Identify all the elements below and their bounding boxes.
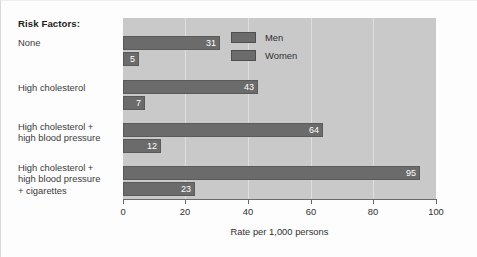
chart-title: Risk Factors:: [18, 18, 80, 29]
category-label-line: High cholesterol +: [18, 162, 100, 173]
bar-men-high-cholesterol: 43: [123, 80, 258, 94]
x-tick-label: 20: [180, 206, 190, 217]
bar-men-chol-bp-cigarettes: 95: [123, 166, 420, 180]
plot-area: 31 5 43 7 64 12 95 23 Men: [123, 18, 436, 199]
x-tick-mark: [311, 199, 312, 204]
category-label-line: High cholesterol: [18, 82, 85, 93]
x-tick-mark: [185, 199, 186, 204]
bar-men-chol-bp: 64: [123, 123, 323, 137]
x-tick-label: 80: [368, 206, 378, 217]
category-label-line: high blood pressure: [18, 173, 100, 184]
category-label-chol-bp-cigarettes: High cholesterol + high blood pressure +…: [18, 162, 100, 196]
bar-value-label: 23: [181, 183, 191, 197]
bar-women-none: 5: [123, 52, 139, 66]
x-tick-label: 60: [306, 206, 316, 217]
legend-swatch-icon: [231, 32, 256, 43]
bar-value-label: 43: [244, 81, 254, 95]
legend-item-women: Women: [231, 48, 351, 64]
x-tick-label: 100: [428, 206, 444, 217]
x-tick-mark: [248, 199, 249, 204]
x-tick-label: 40: [243, 206, 253, 217]
bar-value-label: 31: [206, 37, 216, 51]
legend-item-men: Men: [231, 30, 351, 46]
bar-women-high-cholesterol: 7: [123, 96, 145, 110]
x-tick-mark: [373, 199, 374, 204]
legend: Men Women: [231, 30, 351, 66]
x-tick-label: 0: [120, 206, 125, 217]
legend-label: Women: [265, 48, 297, 63]
bar-value-label: 5: [130, 53, 135, 67]
legend-label: Men: [265, 30, 283, 45]
category-label-line: High cholesterol +: [18, 121, 100, 132]
category-label-column: Risk Factors: None High cholesterol High…: [18, 1, 123, 257]
category-label-line: + cigarettes: [18, 185, 100, 196]
bar-men-none: 31: [123, 36, 220, 50]
bar-value-label: 12: [147, 140, 157, 154]
bar-value-label: 95: [406, 167, 416, 181]
x-axis-label: Rate per 1,000 persons: [123, 226, 436, 237]
category-label-none: None: [18, 37, 40, 48]
category-label-chol-bp: High cholesterol + high blood pressure: [18, 121, 100, 144]
x-axis-line: [123, 199, 436, 200]
category-label-line: None: [18, 37, 40, 48]
category-label-line: high blood pressure: [18, 132, 100, 143]
category-label-high-cholesterol: High cholesterol: [18, 82, 85, 93]
bar-value-label: 7: [136, 97, 141, 111]
chart-figure: Risk Factors: None High cholesterol High…: [0, 0, 477, 257]
x-tick-mark: [123, 199, 124, 204]
bar-women-chol-bp: 12: [123, 139, 161, 153]
x-tick-mark: [436, 199, 437, 204]
legend-swatch-icon: [231, 50, 256, 61]
bar-value-label: 64: [309, 124, 319, 138]
bar-women-chol-bp-cigarettes: 23: [123, 182, 195, 196]
